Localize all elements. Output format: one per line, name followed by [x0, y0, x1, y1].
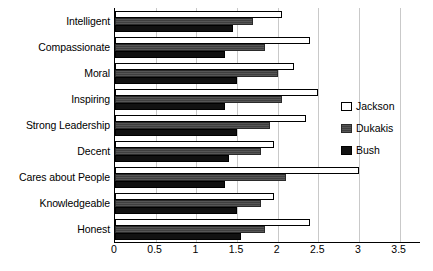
category-label: Intelligent: [0, 8, 113, 34]
bar-jackson: [115, 193, 274, 200]
x-tick-label: 2.5: [310, 244, 325, 255]
legend-swatch-dukakis-icon: [341, 124, 352, 133]
bar-group: [115, 60, 420, 86]
bar-dukakis: [115, 200, 261, 207]
category-label: Honest: [0, 216, 113, 242]
bar-dukakis: [115, 18, 253, 25]
x-tick-label: 1.5: [229, 244, 244, 255]
bar-dukakis: [115, 96, 282, 103]
bar-dukakis: [115, 44, 265, 51]
x-tick-label: 3: [355, 244, 361, 255]
legend-label: Dukakis: [356, 122, 393, 134]
legend-label: Bush: [356, 144, 380, 156]
x-tick-label: 1: [192, 244, 198, 255]
bar-dukakis: [115, 70, 278, 77]
category-axis-labels: IntelligentCompassionateMoralInspiringSt…: [0, 8, 113, 242]
bar-jackson: [115, 115, 306, 122]
figure-caption: [4, 262, 429, 270]
legend-swatch-bush-icon: [341, 146, 352, 155]
bar-bush: [115, 233, 241, 240]
category-label: Moral: [0, 60, 113, 86]
bar-jackson: [115, 11, 282, 18]
bar-dukakis: [115, 226, 265, 233]
bar-bush: [115, 181, 225, 188]
bar-group: [115, 8, 420, 34]
bar-dukakis: [115, 148, 261, 155]
bar-group: [115, 216, 420, 242]
bar-dukakis: [115, 122, 270, 129]
bar-jackson: [115, 37, 310, 44]
category-label: Cares about People: [0, 164, 113, 190]
category-label: Strong Leadership: [0, 112, 113, 138]
bar-jackson: [115, 219, 310, 226]
bar-bush: [115, 25, 233, 32]
category-label: Compassionate: [0, 34, 113, 60]
bar-group: [115, 190, 420, 216]
x-tick-label: 0: [111, 244, 117, 255]
bar-bush: [115, 207, 237, 214]
category-label: Decent: [0, 138, 113, 164]
legend-item-jackson[interactable]: Jackson: [341, 95, 429, 117]
legend-label: Jackson: [356, 100, 395, 112]
x-tick-label: 3.5: [391, 244, 406, 255]
category-label: Inspiring: [0, 86, 113, 112]
legend-item-bush[interactable]: Bush: [341, 139, 429, 161]
bar-jackson: [115, 141, 274, 148]
x-tick-label: 0.5: [147, 244, 162, 255]
bar-bush: [115, 103, 225, 110]
bar-chart: IntelligentCompassionateMoralInspiringSt…: [0, 0, 433, 271]
bar-group: [115, 34, 420, 60]
bar-jackson: [115, 89, 318, 96]
bar-jackson: [115, 167, 359, 174]
legend-swatch-jackson-icon: [341, 102, 352, 111]
bar-bush: [115, 129, 237, 136]
x-tick-label: 2: [274, 244, 280, 255]
category-label: Knowledgeable: [0, 190, 113, 216]
bar-bush: [115, 51, 225, 58]
bar-jackson: [115, 63, 294, 70]
bar-bush: [115, 77, 237, 84]
chart-legend: JacksonDukakisBush: [341, 95, 429, 161]
bar-dukakis: [115, 174, 286, 181]
bar-group: [115, 164, 420, 190]
x-axis-ticks: 00.511.522.533.5: [114, 244, 420, 260]
bar-bush: [115, 155, 229, 162]
legend-item-dukakis[interactable]: Dukakis: [341, 117, 429, 139]
